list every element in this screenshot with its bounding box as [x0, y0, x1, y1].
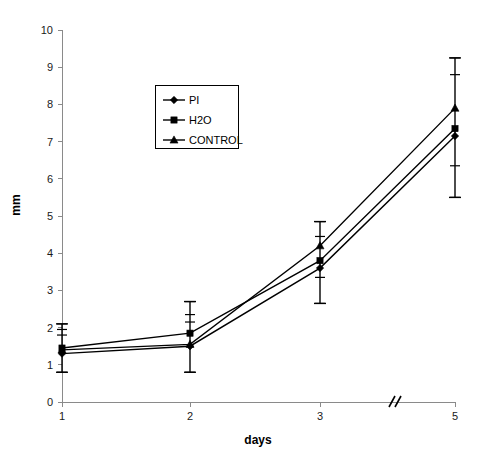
y-tick-label: 9: [47, 61, 53, 73]
y-tick-label: 7: [47, 136, 53, 148]
chart-figure: mm days 012345678910 1235 PIH2OCONTROL: [0, 0, 485, 462]
series-line-control: [62, 108, 455, 350]
y-tick-label: 6: [47, 173, 53, 185]
y-tick-label: 8: [47, 98, 53, 110]
series-lines: [62, 108, 455, 354]
y-tick-label: 1: [47, 359, 53, 371]
error-bars: [56, 58, 461, 372]
x-tick-label: 2: [187, 410, 193, 422]
y-tick-label: 10: [41, 24, 53, 36]
data-point-control: [451, 104, 459, 111]
legend-marker-square: [171, 117, 177, 123]
series-markers: [58, 104, 459, 357]
y-tick-label: 2: [47, 322, 53, 334]
y-tick-label: 0: [47, 396, 53, 408]
data-point-h2o: [317, 258, 323, 264]
error-bar: [184, 302, 196, 373]
x-axis-title: days: [244, 433, 272, 447]
x-tick-label: 1: [59, 410, 65, 422]
y-axis-title: mm: [9, 194, 23, 215]
data-point-h2o: [187, 330, 193, 336]
legend-label: PI: [189, 94, 199, 106]
y-tick-label: 4: [47, 247, 53, 259]
x-axis: 1235: [59, 396, 458, 422]
x-tick-label: 5: [452, 410, 458, 422]
y-tick-label: 5: [47, 210, 53, 222]
legend-label: H2O: [189, 114, 212, 126]
x-tick-label: 3: [317, 410, 323, 422]
series-line-h2o: [62, 129, 455, 348]
legend-label: CONTROL: [189, 134, 243, 146]
y-tick-label: 3: [47, 284, 53, 296]
legend[interactable]: PIH2OCONTROL: [155, 85, 243, 148]
data-point-h2o: [452, 125, 458, 131]
line-chart: mm days 012345678910 1235 PIH2OCONTROL: [0, 0, 485, 462]
